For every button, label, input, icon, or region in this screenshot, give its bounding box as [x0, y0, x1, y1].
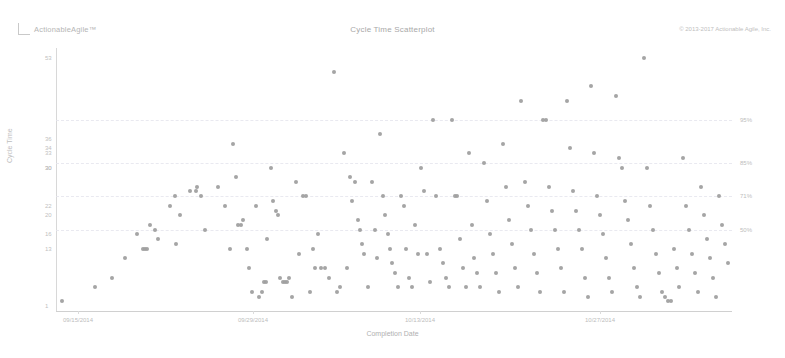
scatter-point[interactable] — [308, 290, 312, 294]
scatter-point[interactable] — [60, 299, 64, 303]
scatter-point[interactable] — [693, 271, 697, 275]
scatter-point[interactable] — [393, 271, 397, 275]
scatter-point[interactable] — [617, 156, 621, 160]
scatter-point[interactable] — [388, 247, 392, 251]
scatter-point[interactable] — [203, 228, 207, 232]
scatter-point[interactable] — [234, 175, 238, 179]
scatter-point[interactable] — [672, 247, 676, 251]
scatter-point[interactable] — [491, 252, 495, 256]
scatter-point[interactable] — [241, 218, 245, 222]
scatter-point[interactable] — [360, 242, 364, 246]
scatter-point[interactable] — [663, 295, 667, 299]
scatter-point[interactable] — [260, 290, 264, 294]
scatter-point[interactable] — [677, 285, 681, 289]
scatter-point[interactable] — [669, 299, 673, 303]
scatter-point[interactable] — [488, 232, 492, 236]
scatter-point[interactable] — [434, 194, 438, 198]
scatter-point[interactable] — [607, 276, 611, 280]
scatter-point[interactable] — [338, 285, 342, 289]
scatter-point[interactable] — [660, 290, 664, 294]
scatter-point[interactable] — [494, 271, 498, 275]
scatter-point[interactable] — [475, 271, 479, 275]
scatter-point[interactable] — [696, 290, 700, 294]
scatter-point[interactable] — [366, 285, 370, 289]
scatter-point[interactable] — [684, 204, 688, 208]
scatter-point[interactable] — [571, 189, 575, 193]
scatter-point[interactable] — [532, 252, 536, 256]
scatter-point[interactable] — [614, 94, 618, 98]
scatter-point[interactable] — [559, 266, 563, 270]
scatter-point[interactable] — [720, 223, 724, 227]
scatter-point[interactable] — [269, 166, 273, 170]
scatter-point[interactable] — [250, 290, 254, 294]
scatter-point[interactable] — [239, 223, 243, 227]
scatter-point[interactable] — [482, 161, 486, 165]
scatter-point[interactable] — [419, 166, 423, 170]
scatter-point[interactable] — [526, 204, 530, 208]
scatter-point[interactable] — [580, 247, 584, 251]
scatter-point[interactable] — [529, 228, 533, 232]
scatter-point[interactable] — [635, 285, 639, 289]
scatter-point[interactable] — [467, 151, 471, 155]
scatter-point[interactable] — [598, 213, 602, 217]
scatter-point[interactable] — [254, 204, 258, 208]
scatter-point[interactable] — [642, 56, 646, 60]
scatter-point[interactable] — [431, 118, 435, 122]
scatter-point[interactable] — [335, 290, 339, 294]
scatter-point[interactable] — [657, 271, 661, 275]
scatter-point[interactable] — [645, 166, 649, 170]
scatter-point[interactable] — [153, 228, 157, 232]
scatter-point[interactable] — [714, 295, 718, 299]
scatter-point[interactable] — [723, 242, 727, 246]
scatter-point[interactable] — [285, 280, 289, 284]
scatter-point[interactable] — [174, 242, 178, 246]
scatter-point[interactable] — [257, 295, 261, 299]
scatter-point[interactable] — [332, 70, 336, 74]
scatter-point[interactable] — [717, 194, 721, 198]
scatter-point[interactable] — [595, 194, 599, 198]
scatter-point[interactable] — [199, 194, 203, 198]
scatter-point[interactable] — [455, 194, 459, 198]
scatter-point[interactable] — [425, 252, 429, 256]
scatter-point[interactable] — [501, 142, 505, 146]
scatter-point[interactable] — [623, 199, 627, 203]
scatter-point[interactable] — [629, 242, 633, 246]
scatter-point[interactable] — [316, 232, 320, 236]
scatter-point[interactable] — [687, 228, 691, 232]
scatter-point[interactable] — [110, 276, 114, 280]
scatter-point[interactable] — [705, 237, 709, 241]
scatter-point[interactable] — [568, 146, 572, 150]
scatter-point[interactable] — [651, 228, 655, 232]
scatter-point[interactable] — [507, 218, 511, 222]
scatter-point[interactable] — [416, 252, 420, 256]
scatter-point[interactable] — [323, 266, 327, 270]
scatter-point[interactable] — [148, 223, 152, 227]
scatter-point[interactable] — [472, 256, 476, 260]
scatter-point[interactable] — [547, 185, 551, 189]
scatter-point[interactable] — [544, 118, 548, 122]
scatter-point[interactable] — [562, 290, 566, 294]
scatter-point[interactable] — [370, 180, 374, 184]
scatter-point[interactable] — [553, 228, 557, 232]
scatter-point[interactable] — [675, 266, 679, 270]
scatter-point[interactable] — [470, 223, 474, 227]
scatter-point[interactable] — [386, 232, 390, 236]
scatter-point[interactable] — [441, 261, 445, 265]
scatter-point[interactable] — [348, 175, 352, 179]
scatter-point[interactable] — [327, 276, 331, 280]
scatter-point[interactable] — [135, 232, 139, 236]
scatter-point[interactable] — [373, 228, 377, 232]
scatter-point[interactable] — [216, 185, 220, 189]
scatter-point[interactable] — [358, 228, 362, 232]
scatter-point[interactable] — [231, 142, 235, 146]
scatter-point[interactable] — [510, 242, 514, 246]
scatter-point[interactable] — [383, 213, 387, 217]
scatter-point[interactable] — [294, 180, 298, 184]
scatter-point[interactable] — [450, 118, 454, 122]
scatter-point[interactable] — [194, 189, 198, 193]
scatter-point[interactable] — [378, 132, 382, 136]
scatter-point[interactable] — [497, 290, 501, 294]
scatter-point[interactable] — [407, 276, 411, 280]
scatter-point[interactable] — [538, 290, 542, 294]
scatter-point[interactable] — [353, 180, 357, 184]
